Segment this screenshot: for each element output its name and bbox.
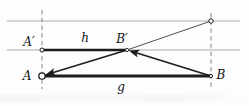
label-g: g [117,80,125,94]
point-top-right [209,19,213,23]
point-B [209,74,212,77]
arrow-Bprime-to-A-shaft [50,50,127,74]
point-B-prime [125,48,128,51]
point-A [39,73,45,79]
label-A: A [22,69,32,83]
label-B-prime: B′ [115,32,128,46]
geometry-figure: A′hB′AgB [0,0,249,106]
arrow-B-to-Bprime-shaft [134,52,211,76]
point-A-prime [40,48,44,52]
figure-svg: A′hB′AgB [0,0,249,106]
label-h: h [81,31,89,45]
label-B: B [216,68,226,82]
label-A-prime: A′ [22,35,35,49]
ray-Bprime-to-top-point [127,21,211,50]
